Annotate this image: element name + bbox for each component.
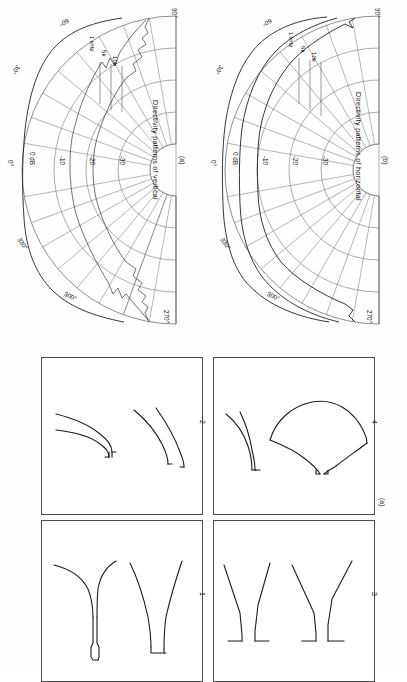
polar-b-series-label-1khz: 1 kHz xyxy=(288,32,295,48)
panel-2-number: 2 xyxy=(199,420,206,424)
polar-b-angle-tick-0: 0° xyxy=(210,160,217,166)
polar-figure-a: 0° 30° 60° 90° 330° 300° 270° 0 dB -10 -… xyxy=(0,0,204,340)
panel-4-number: 4 xyxy=(371,420,378,424)
panel-1-number: 1 xyxy=(199,592,206,596)
polar-a-angle-tick-0: 0° xyxy=(7,160,14,166)
polar-figure-b: 0° 30° 60° 90° 330° 300° 270° 0 dB -10 -… xyxy=(203,0,407,340)
polar-a-angle-tick-270: 270° xyxy=(163,310,170,323)
polar-b-series-label-10k: 10k xyxy=(311,52,318,62)
polar-a-radial-tick-0db: 0 dB xyxy=(29,152,36,165)
polar-b-radial-tick-m30: -30 xyxy=(322,156,329,165)
polar-b-angle-tick-270: 270° xyxy=(366,310,373,323)
polar-b-angle-tick-90: 90° xyxy=(374,8,381,18)
panel-4 xyxy=(213,357,375,515)
polar-a-series-label-5k: 5k xyxy=(101,50,108,56)
polar-a-series-label-10k: 10k xyxy=(112,56,119,66)
polar-b-radial-tick-m20: -20 xyxy=(292,156,299,165)
polar-a-radial-tick-m10: -10 xyxy=(59,156,66,165)
polar-a-angle-tick-90: 90° xyxy=(171,8,178,18)
polar-b-series-label-5k: 5k xyxy=(300,46,307,52)
panel-2 xyxy=(41,357,203,515)
polar-a-series-label-1khz: 1 kHz xyxy=(89,36,96,52)
panel-3-number: 3 xyxy=(371,592,378,596)
polar-a-radial-tick-m30: -30 xyxy=(119,156,126,165)
polar-b-radial-tick-0db: 0 dB xyxy=(232,152,239,165)
horn-profiles-figure-label: (a) xyxy=(379,498,386,507)
polar-a-radial-tick-m20: -20 xyxy=(89,156,96,165)
polar-b-caption: Directivity patterns of horizontal xyxy=(354,92,363,201)
polar-a-caption: Directivity patterns of vertical xyxy=(151,100,160,200)
horn-profiles-figure: 2 4 xyxy=(0,340,407,671)
polar-b-sub-label: (b) xyxy=(382,156,389,165)
panel-3 xyxy=(213,520,375,682)
panel-1 xyxy=(41,520,203,682)
polar-b-radial-tick-m10: -10 xyxy=(262,156,269,165)
polar-a-sub-label: (a) xyxy=(179,156,186,165)
